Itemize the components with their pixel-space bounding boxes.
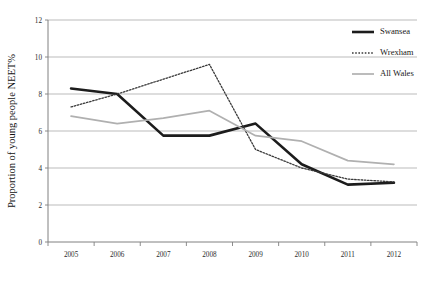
x-tick-label-2011: 2011: [341, 251, 356, 259]
legend-label-swansea: Swansea: [380, 26, 410, 36]
y-tick-label-2: 2: [38, 202, 42, 210]
legend-label-wrexham: Wrexham: [380, 47, 414, 57]
series-line-all-wales: [71, 111, 394, 165]
y-tick-label-0: 0: [38, 239, 42, 247]
data-series: [71, 64, 394, 184]
x-tick-label-2012: 2012: [387, 251, 402, 259]
x-tick-label-2007: 2007: [156, 251, 171, 259]
y-axis-ticks: 024681012: [35, 17, 48, 247]
gridlines: [48, 20, 417, 205]
y-tick-label-12: 12: [35, 17, 43, 25]
x-tick-label-2008: 2008: [202, 251, 217, 259]
chart-legend: SwanseaWrexhamAll Wales: [352, 26, 414, 78]
y-tick-label-8: 8: [38, 91, 42, 99]
series-line-swansea: [71, 88, 394, 184]
y-tick-label-10: 10: [35, 54, 43, 62]
chart-canvas: 024681012 200520062007200820092010201120…: [0, 0, 434, 282]
neet-line-chart: 024681012 200520062007200820092010201120…: [0, 0, 434, 282]
x-tick-label-2006: 2006: [110, 251, 125, 259]
y-tick-label-4: 4: [38, 165, 42, 173]
x-tick-label-2005: 2005: [64, 251, 79, 259]
y-axis-title: Proportion of young people NEET%: [6, 54, 17, 208]
x-tick-label-2010: 2010: [295, 251, 310, 259]
legend-label-all-wales: All Wales: [380, 68, 414, 78]
x-axis-ticks: 20052006200720082009201020112012: [48, 242, 417, 259]
x-tick-label-2009: 2009: [248, 251, 263, 259]
y-tick-label-6: 6: [38, 128, 42, 136]
